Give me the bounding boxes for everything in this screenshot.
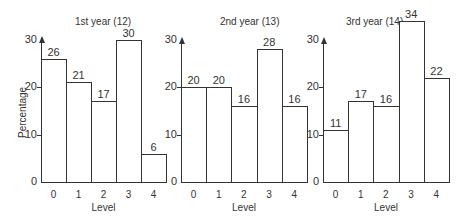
- bar-value-label: 22: [424, 65, 449, 77]
- bar-level-1: [66, 82, 92, 183]
- y-axis-arrow-icon: [321, 37, 327, 44]
- bar-value-label: 21: [66, 69, 91, 81]
- bar-level-4: [282, 106, 308, 183]
- y-tick-label: 0: [19, 175, 37, 187]
- y-tick-label: 30: [19, 33, 37, 45]
- y-tick-label: 10: [301, 128, 319, 140]
- bar-value-label: 16: [373, 93, 398, 105]
- chart-title: 2nd year (13): [220, 16, 279, 27]
- bar-level-2: [91, 101, 117, 183]
- bar-value-label: 16: [231, 93, 256, 105]
- x-tick-label: 2: [91, 189, 116, 200]
- bar-level-3: [399, 21, 425, 184]
- x-tick-label: 3: [257, 189, 282, 200]
- bar-value-label: 17: [348, 88, 373, 100]
- y-tick-label: 0: [301, 175, 319, 187]
- chart-title: 3rd year (14): [346, 16, 403, 27]
- x-tick-label: 0: [323, 189, 348, 200]
- y-tick-label: 10: [159, 128, 177, 140]
- bar-value-label: 17: [91, 88, 116, 100]
- bar-level-4: [424, 78, 450, 184]
- bar-value-label: 16: [282, 93, 307, 105]
- bar-value-label: 28: [257, 36, 282, 48]
- bar-value-label: 20: [181, 74, 206, 86]
- x-axis-title: Level: [181, 202, 307, 213]
- bar-value-label: 26: [41, 46, 66, 58]
- y-tick-label: 20: [159, 80, 177, 92]
- x-tick-label: 2: [373, 189, 398, 200]
- x-tick-label: 3: [399, 189, 424, 200]
- x-axis-title: Level: [41, 202, 166, 213]
- bar-value-label: 20: [206, 74, 231, 86]
- bar-value-label: 11: [323, 117, 348, 129]
- bar-level-0: [323, 130, 349, 183]
- y-axis-arrow-icon: [39, 36, 45, 43]
- bar-level-1: [348, 101, 374, 183]
- x-tick-label: 0: [41, 189, 66, 200]
- chart-title: 1st year (12): [75, 16, 131, 27]
- x-tick-label: 1: [206, 189, 231, 200]
- y-tick-label: 30: [159, 33, 177, 45]
- bar-level-1: [206, 87, 232, 183]
- bar-level-0: [181, 87, 207, 183]
- bar-level-0: [41, 59, 67, 184]
- x-tick-label: 1: [66, 189, 91, 200]
- y-tick-label: 30: [301, 33, 319, 45]
- bar-value-label: 6: [141, 141, 166, 153]
- y-axis-arrow-icon: [179, 37, 185, 44]
- bar-level-2: [373, 106, 399, 183]
- y-axis-title: Percentage: [17, 87, 28, 138]
- x-tick-label: 0: [181, 189, 206, 200]
- y-tick: [319, 87, 323, 88]
- x-tick-label: 2: [231, 189, 256, 200]
- x-tick-label: 4: [282, 189, 307, 200]
- x-tick-label: 1: [348, 189, 373, 200]
- x-tick-label: 4: [141, 189, 166, 200]
- x-axis-title: Level: [323, 202, 449, 213]
- y-tick-label: 0: [159, 175, 177, 187]
- bar-level-3: [116, 40, 142, 184]
- bar-level-3: [257, 49, 283, 183]
- x-tick-label: 4: [424, 189, 449, 200]
- x-tick-label: 3: [116, 189, 141, 200]
- y-tick-label: 20: [301, 80, 319, 92]
- bar-level-2: [231, 106, 257, 183]
- bar-value-label: 34: [399, 8, 424, 20]
- bar-value-label: 30: [116, 27, 141, 39]
